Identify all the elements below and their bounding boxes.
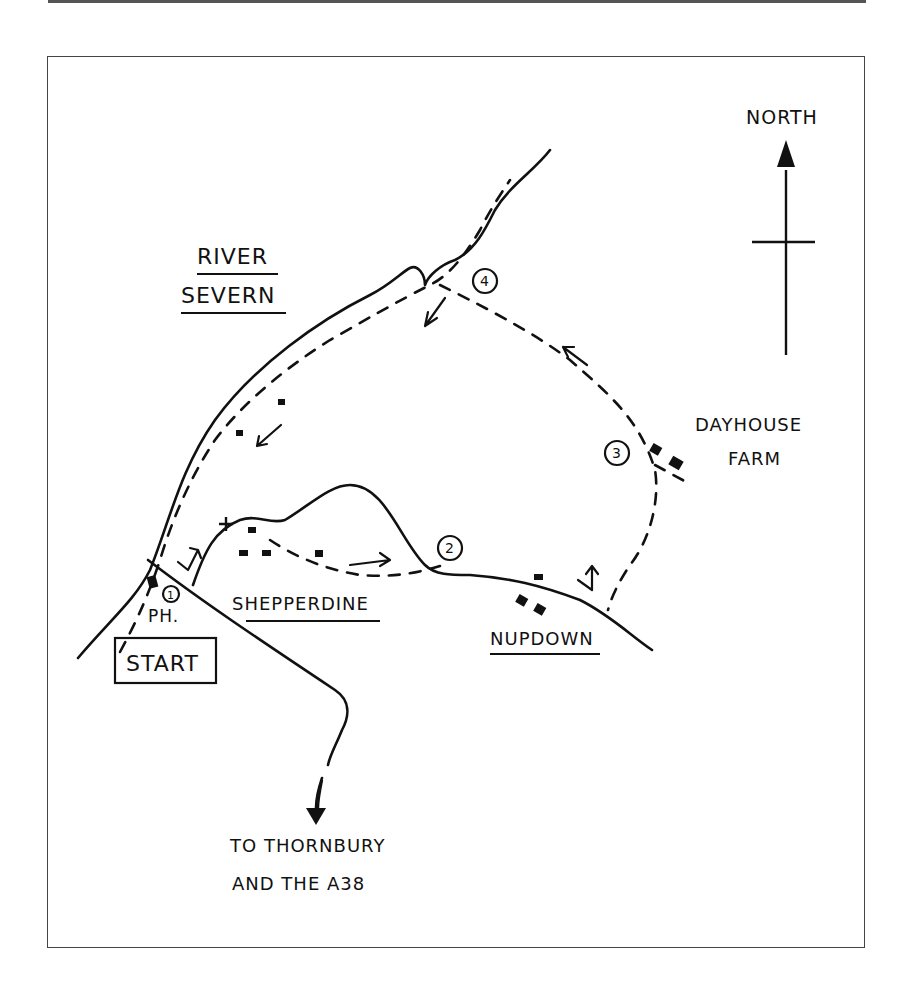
nupdown-label: NUPDOWN: [490, 628, 594, 649]
waypoint-1-label: 1: [167, 589, 175, 602]
footpath-shepperdine: [270, 540, 440, 576]
down-arrow-icon: [318, 780, 322, 808]
direction-arrow-icon: [178, 548, 201, 570]
farm-label-line2: FARM: [728, 448, 781, 469]
walk-map: 1 2 3 4 NORTH RIVER SEVERN DAYHOUSE FARM…: [0, 0, 912, 1003]
footpath-4-to-3: [440, 285, 656, 610]
farm-label-line1: DAYHOUSE: [695, 414, 802, 435]
waypoint-2-label: 2: [445, 540, 455, 556]
direction-arrow-icon: [578, 566, 598, 590]
church-cross-icon: [219, 517, 233, 531]
waypoint-4-label: 4: [480, 273, 490, 289]
road-shepperdine: [193, 485, 652, 650]
direction-arrow-icon: [563, 347, 587, 365]
river-label-line2: SEVERN: [181, 283, 276, 308]
waypoint-3-label: 3: [612, 445, 622, 461]
compass-label: NORTH: [746, 106, 818, 128]
footpath-river: [120, 180, 510, 652]
footpath-farm-spur: [655, 465, 690, 484]
direction-arrow-icon: [257, 425, 281, 446]
pub-label: PH.: [148, 606, 179, 626]
shepperdine-label: SHEPPERDINE: [232, 593, 369, 614]
north-arrowhead-icon: [777, 140, 795, 167]
building-markers: [147, 399, 684, 616]
down-arrowhead-icon: [306, 808, 326, 825]
direction-label-line1: TO THORNBURY: [229, 835, 385, 856]
start-label: START: [126, 651, 199, 676]
direction-arrow-icon: [425, 298, 445, 326]
river-label-line1: RIVER: [197, 244, 268, 269]
north-arrow-icon: [752, 170, 815, 355]
direction-label-line2: AND THE A38: [232, 873, 365, 894]
direction-arrow-icon: [350, 553, 390, 566]
